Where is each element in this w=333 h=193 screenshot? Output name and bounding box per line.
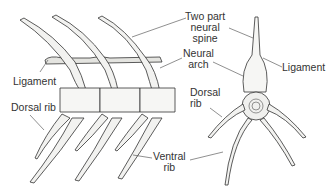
label-neural-arch: Neural arch [183,48,214,70]
label-two-part-neural-spine: Two part neural spine [185,11,225,44]
label-line: spine [185,33,225,44]
fish-vertebrae-diagram: Two part neural spine Neural arch Ligame… [0,0,333,193]
label-dorsal-rib-right: Dorsal rib [190,87,220,109]
label-ligament-right: Ligament [282,62,325,73]
label-ligament-left: Ligament [13,76,56,87]
label-dorsal-rib-left: Dorsal rib [11,102,56,113]
label-ventral-rib: Ventral rib [153,151,186,173]
label-line: rib [190,98,220,109]
label-line: arch [183,59,214,70]
label-line: rib [153,162,186,173]
